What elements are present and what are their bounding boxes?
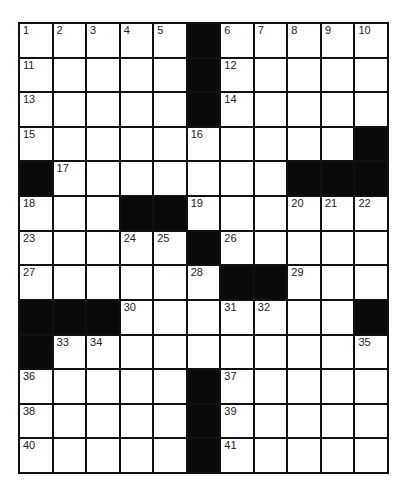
grid-cell[interactable] [221,197,253,230]
grid-cell[interactable] [255,93,287,126]
grid-cell[interactable] [54,266,86,299]
grid-cell[interactable] [54,197,86,230]
grid-cell[interactable] [121,93,153,126]
grid-cell[interactable] [154,266,186,299]
grid-cell[interactable]: 2 [54,24,86,57]
grid-cell[interactable] [154,301,186,334]
grid-cell[interactable]: 12 [221,59,253,92]
grid-cell[interactable]: 4 [121,24,153,57]
grid-cell[interactable]: 32 [255,301,287,334]
grid-cell[interactable] [288,301,320,334]
grid-cell[interactable]: 10 [355,24,387,57]
grid-cell[interactable]: 8 [288,24,320,57]
grid-cell[interactable] [54,93,86,126]
grid-cell[interactable]: 14 [221,93,253,126]
grid-cell[interactable]: 40 [20,439,52,472]
grid-cell[interactable]: 26 [221,232,253,265]
grid-cell[interactable] [87,162,119,195]
grid-cell[interactable] [87,439,119,472]
grid-cell[interactable] [255,162,287,195]
grid-cell[interactable] [154,336,186,369]
grid-cell[interactable] [288,370,320,403]
grid-cell[interactable]: 15 [20,128,52,161]
grid-cell[interactable]: 20 [288,197,320,230]
grid-cell[interactable] [221,162,253,195]
grid-cell[interactable] [221,336,253,369]
grid-cell[interactable] [355,232,387,265]
grid-cell[interactable]: 16 [188,128,220,161]
grid-cell[interactable] [288,128,320,161]
grid-cell[interactable] [121,336,153,369]
grid-cell[interactable] [322,439,354,472]
grid-cell[interactable] [87,370,119,403]
grid-cell[interactable]: 31 [221,301,253,334]
grid-cell[interactable] [87,405,119,438]
grid-cell[interactable]: 33 [54,336,86,369]
grid-cell[interactable] [154,93,186,126]
grid-cell[interactable]: 24 [121,232,153,265]
grid-cell[interactable] [54,232,86,265]
grid-cell[interactable] [355,59,387,92]
grid-cell[interactable] [54,59,86,92]
grid-cell[interactable] [154,128,186,161]
grid-cell[interactable]: 7 [255,24,287,57]
grid-cell[interactable] [255,59,287,92]
grid-cell[interactable] [322,370,354,403]
grid-cell[interactable] [121,439,153,472]
grid-cell[interactable]: 41 [221,439,253,472]
grid-cell[interactable] [54,370,86,403]
grid-cell[interactable]: 36 [20,370,52,403]
grid-cell[interactable] [255,405,287,438]
grid-cell[interactable] [54,128,86,161]
grid-cell[interactable]: 34 [87,336,119,369]
grid-cell[interactable]: 13 [20,93,52,126]
grid-cell[interactable] [188,336,220,369]
grid-cell[interactable] [87,59,119,92]
grid-cell[interactable] [255,128,287,161]
grid-cell[interactable]: 21 [322,197,354,230]
grid-cell[interactable] [355,93,387,126]
grid-cell[interactable]: 37 [221,370,253,403]
grid-cell[interactable] [288,59,320,92]
grid-cell[interactable]: 25 [154,232,186,265]
grid-cell[interactable]: 30 [121,301,153,334]
grid-cell[interactable]: 35 [355,336,387,369]
grid-cell[interactable] [355,370,387,403]
grid-cell[interactable] [322,336,354,369]
grid-cell[interactable] [355,266,387,299]
grid-cell[interactable]: 29 [288,266,320,299]
grid-cell[interactable] [154,370,186,403]
grid-cell[interactable] [355,439,387,472]
grid-cell[interactable]: 23 [20,232,52,265]
grid-cell[interactable] [87,128,119,161]
grid-cell[interactable] [322,266,354,299]
grid-cell[interactable] [322,232,354,265]
grid-cell[interactable] [87,197,119,230]
grid-cell[interactable] [288,336,320,369]
grid-cell[interactable] [255,439,287,472]
grid-cell[interactable] [322,405,354,438]
grid-cell[interactable]: 3 [87,24,119,57]
grid-cell[interactable]: 1 [20,24,52,57]
grid-cell[interactable] [54,405,86,438]
grid-cell[interactable]: 28 [188,266,220,299]
grid-cell[interactable] [255,336,287,369]
grid-cell[interactable]: 27 [20,266,52,299]
grid-cell[interactable] [121,370,153,403]
grid-cell[interactable] [188,301,220,334]
grid-cell[interactable]: 5 [154,24,186,57]
grid-cell[interactable] [154,405,186,438]
grid-cell[interactable]: 17 [54,162,86,195]
grid-cell[interactable]: 18 [20,197,52,230]
grid-cell[interactable]: 11 [20,59,52,92]
grid-cell[interactable] [154,439,186,472]
grid-cell[interactable]: 9 [322,24,354,57]
grid-cell[interactable] [288,439,320,472]
grid-cell[interactable] [121,405,153,438]
grid-cell[interactable] [87,266,119,299]
grid-cell[interactable]: 6 [221,24,253,57]
grid-cell[interactable] [255,232,287,265]
grid-cell[interactable] [288,405,320,438]
grid-cell[interactable] [322,128,354,161]
grid-cell[interactable] [121,128,153,161]
